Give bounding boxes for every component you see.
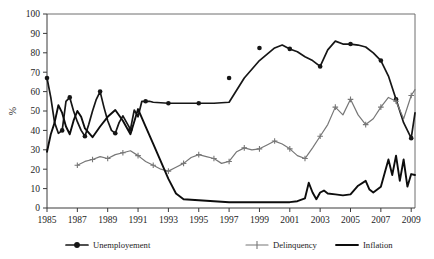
plot-frame xyxy=(47,14,415,208)
chart-container: 0102030405060708090100 19851987198919911… xyxy=(0,0,434,259)
legend-label: Unemployement xyxy=(93,240,151,250)
data-point-marker xyxy=(288,47,293,52)
y-tick-label: 30 xyxy=(31,145,41,155)
x-tick-label: 2009 xyxy=(402,215,421,225)
y-tick-label: 10 xyxy=(31,184,41,194)
legend-items: UnemployementDelinquencyInflation xyxy=(66,240,393,250)
y-axis-tick-labels: 0102030405060708090100 xyxy=(26,9,41,213)
y-tick-label: 70 xyxy=(31,68,41,78)
data-point-marker xyxy=(113,131,118,136)
x-tick-label: 1985 xyxy=(38,215,57,225)
y-tick-label: 90 xyxy=(31,29,41,39)
x-tick-label: 1997 xyxy=(220,215,239,225)
x-tick-label: 1989 xyxy=(98,215,117,225)
data-point-marker xyxy=(227,76,232,81)
data-point-marker xyxy=(98,89,103,94)
plot-background xyxy=(47,14,415,208)
data-point-marker xyxy=(83,134,88,139)
data-point-marker xyxy=(409,136,414,141)
legend: UnemployementDelinquencyInflation xyxy=(33,229,405,255)
legend-item-inflation[interactable]: Inflation xyxy=(336,240,393,250)
data-point-marker xyxy=(318,64,323,69)
x-tick-label: 1995 xyxy=(189,215,208,225)
x-tick-label: 2007 xyxy=(371,215,390,225)
y-tick-label: 20 xyxy=(31,165,41,175)
data-point-marker xyxy=(143,99,148,104)
data-point-marker xyxy=(45,76,50,81)
y-tick-label: 0 xyxy=(35,203,40,213)
legend-marker-icon xyxy=(74,242,80,248)
legend-item-delinquency[interactable]: Delinquency xyxy=(246,240,318,250)
x-tick-label: 1999 xyxy=(250,215,269,225)
x-axis-ticks xyxy=(47,208,411,212)
x-tick-label: 1987 xyxy=(68,215,87,225)
legend-label: Inflation xyxy=(363,240,393,250)
y-axis-ticks xyxy=(43,14,47,208)
x-tick-label: 2003 xyxy=(311,215,330,225)
line-chart: 0102030405060708090100 19851987198919911… xyxy=(0,0,434,259)
data-point-marker xyxy=(67,95,72,100)
y-tick-label: 100 xyxy=(26,9,41,19)
x-tick-label: 2001 xyxy=(280,215,299,225)
data-point-marker xyxy=(60,128,65,133)
x-axis-tick-labels: 1985198719891991199319951997199920012003… xyxy=(38,215,421,225)
y-tick-label: 40 xyxy=(31,126,41,136)
legend-label: Delinquency xyxy=(273,240,318,250)
data-point-marker xyxy=(196,101,201,106)
data-point-marker xyxy=(166,101,171,106)
y-tick-label: 50 xyxy=(31,106,41,116)
data-point-marker xyxy=(348,42,353,47)
y-tick-label: 80 xyxy=(31,48,41,58)
y-tick-label: 60 xyxy=(31,87,41,97)
y-axis-title: % xyxy=(7,107,18,115)
data-point-marker xyxy=(379,58,384,63)
x-tick-label: 2005 xyxy=(341,215,360,225)
legend-item-unemployement[interactable]: Unemployement xyxy=(66,240,151,250)
data-point-marker xyxy=(257,46,262,51)
x-tick-label: 1993 xyxy=(159,215,178,225)
x-tick-label: 1991 xyxy=(129,215,148,225)
legend-box xyxy=(33,229,405,255)
